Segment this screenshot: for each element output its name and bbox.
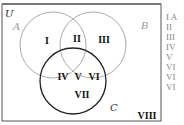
side-list-item: VI (166, 72, 176, 82)
set-c-label: C (110, 102, 118, 113)
region-v-label: V (74, 71, 82, 82)
side-region-list: I A II III IV V VI VI VI (166, 12, 178, 92)
region-iv-label: IV (57, 71, 69, 82)
set-a-circle (20, 12, 86, 78)
region-iii-label: III (98, 34, 110, 45)
region-vii-label: VII (74, 89, 89, 100)
top-border-shade (2, 3, 161, 5)
venn-diagram: U A B C I II III IV V VI VII VIII I A II… (0, 0, 184, 125)
side-list-item: III (166, 32, 175, 42)
set-b-label: B (140, 20, 148, 31)
side-list-item: VI (166, 62, 176, 72)
set-a-label: A (12, 21, 20, 32)
side-list-item: II (166, 22, 172, 32)
region-i-label: I (45, 35, 49, 46)
region-vi-label: VI (88, 71, 99, 82)
side-list-item: IV (166, 42, 176, 52)
side-list-item: V (166, 52, 173, 62)
universe-label: U (5, 8, 14, 19)
set-b-circle (60, 12, 126, 78)
side-list-item: VI (166, 82, 176, 92)
region-viii-label: VIII (138, 110, 157, 121)
region-ii-label: II (73, 33, 81, 44)
side-list-item: I A (166, 12, 178, 22)
